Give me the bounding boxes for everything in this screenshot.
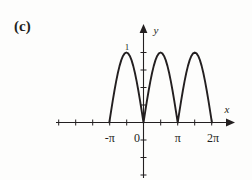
plot-area: -π 0 π 2π 1 y x (0, 0, 252, 180)
x-tick-label-pi: π (175, 131, 181, 145)
curve-abs-sin-x (109, 53, 212, 123)
y-axis-label: y (153, 24, 159, 36)
x-tick-label-2pi: 2π (207, 131, 219, 145)
figure-panel: (c) (0, 0, 252, 180)
y-axis-arrowhead (140, 24, 148, 33)
x-axis (56, 119, 235, 127)
x-tick-label-zero: 0 (134, 131, 140, 145)
x-tick-label-neg-pi: -π (105, 131, 115, 145)
x-axis-arrowhead (226, 119, 235, 127)
y-tick-label-one: 1 (125, 42, 130, 52)
x-axis-label: x (224, 103, 230, 115)
